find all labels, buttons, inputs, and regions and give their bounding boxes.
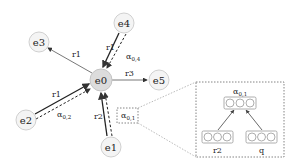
label-r3: r3 <box>125 69 134 78</box>
alpha01-box: α0,1 <box>117 108 138 123</box>
label-alpha02: α0,2 <box>57 110 71 120</box>
svg-text:e2: e2 <box>20 115 32 126</box>
label-r2-e1: r2 <box>94 112 103 121</box>
inset-detail: α0,1 r2 q <box>196 82 284 157</box>
vector-alpha <box>224 97 256 109</box>
inset-label-q: q <box>259 146 264 155</box>
zoom-line-bottom <box>138 123 196 157</box>
vector-r2 <box>202 131 233 143</box>
svg-text:α0,1: α0,1 <box>121 111 135 121</box>
label-alpha04: α0,4 <box>126 52 141 62</box>
node-e5: e5 <box>149 70 169 90</box>
edge-e0-e3 <box>48 48 92 73</box>
node-e1: e1 <box>101 137 121 157</box>
node-e2: e2 <box>16 110 36 130</box>
inset-label-r2: r2 <box>213 146 222 155</box>
svg-text:e4: e4 <box>118 18 130 29</box>
svg-text:e5: e5 <box>153 75 165 86</box>
node-e3: e3 <box>29 32 49 52</box>
label-r1-e2: r1 <box>52 90 61 99</box>
node-e4: e4 <box>114 13 134 33</box>
label-r1-e4: r1 <box>106 43 115 52</box>
svg-text:e1: e1 <box>105 142 117 153</box>
node-e0: e0 <box>90 69 112 91</box>
attention-diagram: e3 e4 e0 e5 e2 e1 r1 r1 α0,4 r3 r1 α0,2 … <box>0 0 297 165</box>
svg-text:e3: e3 <box>33 37 45 48</box>
label-r1-e3: r1 <box>72 50 81 59</box>
svg-text:e0: e0 <box>95 75 107 86</box>
vector-q <box>246 131 277 143</box>
